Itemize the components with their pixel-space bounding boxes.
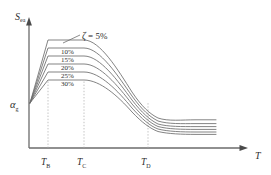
y-axis-arrow-icon <box>26 17 32 26</box>
y-axis-label: Sea <box>15 7 25 23</box>
curve-label-30-text: 30% <box>61 80 74 88</box>
spectrum-curve-damping-10 <box>30 48 216 124</box>
control-period-guides <box>48 80 148 148</box>
curve-label-30: 30% <box>61 73 74 89</box>
spectrum-curves-group <box>30 40 216 134</box>
spectrum-plot <box>0 0 271 175</box>
tick-label-td: TD <box>141 152 151 169</box>
x-axis-label: T <box>255 146 261 162</box>
response-spectrum-figure: Sea αg T TB TC TD ζ = 5% 10% 15% 20% 25%… <box>0 0 271 175</box>
tick-td-subscript: D <box>146 163 150 169</box>
origin-ordinate-label: αg <box>10 95 19 112</box>
spectrum-curve-damping-15 <box>30 56 216 127</box>
tick-label-tb: TB <box>41 152 50 169</box>
axes-group <box>26 17 248 151</box>
tick-tc-subscript: C <box>82 163 86 169</box>
x-axis-arrow-icon <box>240 145 249 151</box>
zeta-legend-annotation: ζ = 5% <box>82 26 107 42</box>
tick-label-tc: TC <box>77 152 86 169</box>
alpha-subscript-g: g <box>16 106 19 112</box>
y-axis-label-subscript: ea <box>20 17 25 23</box>
zeta-value: 5% <box>95 31 107 41</box>
zeta-equals: = <box>86 31 96 41</box>
x-axis-label-main: T <box>255 150 261 161</box>
tick-tb-subscript: B <box>46 163 50 169</box>
